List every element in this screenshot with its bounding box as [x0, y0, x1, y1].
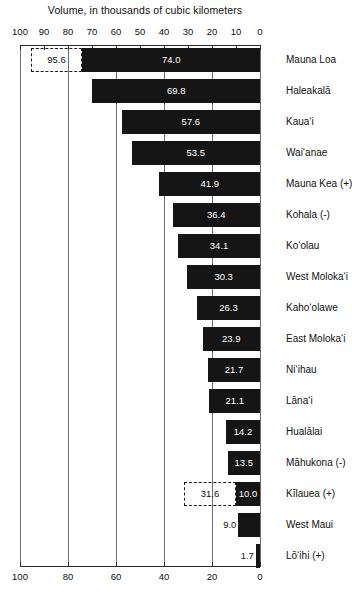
- bottom-tick-label-20: 20: [207, 571, 218, 582]
- bar-row: 1.7Lō‘ihi (+): [20, 544, 260, 568]
- category-label: West Moloka‘i: [286, 265, 348, 289]
- bar-value-label: 57.6: [122, 110, 260, 134]
- extension-value-label: 95.6: [32, 49, 82, 71]
- bar-value-label: 13.5: [228, 451, 260, 475]
- bar-row: 26.3Kaho‘olawe: [20, 296, 260, 320]
- bar-value-label: 23.9: [203, 327, 260, 351]
- plot-area: 95.674.0Mauna Loa69.8Haleakalā57.6Kaua‘i…: [20, 46, 260, 567]
- bar-value-label: 26.3: [197, 296, 260, 320]
- category-label: Lāna‘i: [286, 389, 313, 413]
- bar-row: 31.610.0Kīlauea (+): [20, 482, 260, 506]
- category-label: Kaua‘i: [286, 110, 314, 134]
- top-tick-label-20: 20: [207, 26, 218, 37]
- bar-row: 53.5Wai‘anae: [20, 141, 260, 165]
- top-tick-label-50: 50: [135, 26, 146, 37]
- category-label: Māhukona (-): [286, 451, 345, 475]
- bar-value-label: 30.3: [187, 265, 260, 289]
- bar[interactable]: [256, 544, 260, 568]
- extension-value-label: 31.6: [185, 483, 235, 505]
- top-tick-label-60: 60: [111, 26, 122, 37]
- bar-value-label: 69.8: [92, 79, 260, 103]
- category-label: Mauna Loa: [286, 48, 336, 72]
- category-label: Hualālai: [286, 420, 322, 444]
- category-label: Wai‘anae: [286, 141, 327, 165]
- bar[interactable]: [238, 513, 260, 537]
- top-tick-label-90: 90: [39, 26, 50, 37]
- category-label: Ni‘ihau: [286, 358, 317, 382]
- bar-value-label: 74.0: [82, 48, 260, 72]
- bar-value-label: 21.7: [208, 358, 260, 382]
- extension-box: 31.6: [184, 482, 236, 506]
- bar-row: 95.674.0Mauna Loa: [20, 48, 260, 72]
- bar-row: 9.0West Maui: [20, 513, 260, 537]
- bar-value-label: 14.2: [226, 420, 260, 444]
- category-label: Ko‘olau: [286, 234, 319, 258]
- bar-row: 14.2Hualālai: [20, 420, 260, 444]
- top-tick-label-80: 80: [63, 26, 74, 37]
- bottom-tick-label-40: 40: [159, 571, 170, 582]
- bar-value-label: 53.5: [132, 141, 260, 165]
- bar-value-label: 10.0: [236, 482, 260, 506]
- bar-value-label: 1.7: [230, 544, 254, 568]
- category-label: Kohala (-): [286, 203, 330, 227]
- category-label: Haleakalā: [286, 79, 330, 103]
- bar-row: 13.5Māhukona (-): [20, 451, 260, 475]
- bar-row: 57.6Kaua‘i: [20, 110, 260, 134]
- bottom-tick-label-0: 0: [257, 571, 262, 582]
- top-tick-label-70: 70: [87, 26, 98, 37]
- bar-row: 23.9East Moloka‘i: [20, 327, 260, 351]
- gridline-0: [260, 46, 261, 567]
- top-tick-label-100: 100: [12, 26, 28, 37]
- category-label: Kīlauea (+): [286, 482, 335, 506]
- bar-value-label: 34.1: [178, 234, 260, 258]
- category-label: Lō‘ihi (+): [286, 544, 325, 568]
- top-tick-label-10: 10: [231, 26, 242, 37]
- bar-row: 36.4Kohala (-): [20, 203, 260, 227]
- bar-value-label: 36.4: [173, 203, 260, 227]
- top-tick-0: [260, 45, 261, 50]
- extension-box: 95.6: [31, 48, 83, 72]
- bar-value-label: 21.1: [209, 389, 260, 413]
- chart-title: Volume, in thousands of cubic kilometers: [0, 4, 290, 16]
- bottom-tick-0: [260, 562, 261, 567]
- bar-row: 21.7Ni‘ihau: [20, 358, 260, 382]
- bar-row: 69.8Haleakalā: [20, 79, 260, 103]
- top-tick-label-30: 30: [183, 26, 194, 37]
- bar-value-label: 41.9: [159, 172, 260, 196]
- top-tick-label-40: 40: [159, 26, 170, 37]
- bottom-tick-label-100: 100: [12, 571, 28, 582]
- category-label: West Maui: [286, 513, 333, 537]
- top-tick-label-0: 0: [257, 26, 262, 37]
- bar-row: 41.9Mauna Kea (+): [20, 172, 260, 196]
- category-label: Kaho‘olawe: [286, 296, 338, 320]
- bar-row: 34.1Ko‘olau: [20, 234, 260, 258]
- category-label: Mauna Kea (+): [286, 172, 352, 196]
- bottom-tick-label-60: 60: [111, 571, 122, 582]
- bar-row: 21.1Lāna‘i: [20, 389, 260, 413]
- bottom-tick-label-80: 80: [63, 571, 74, 582]
- bar-value-label: 9.0: [212, 513, 236, 537]
- bar-row: 30.3West Moloka‘i: [20, 265, 260, 289]
- category-label: East Moloka‘i: [286, 327, 345, 351]
